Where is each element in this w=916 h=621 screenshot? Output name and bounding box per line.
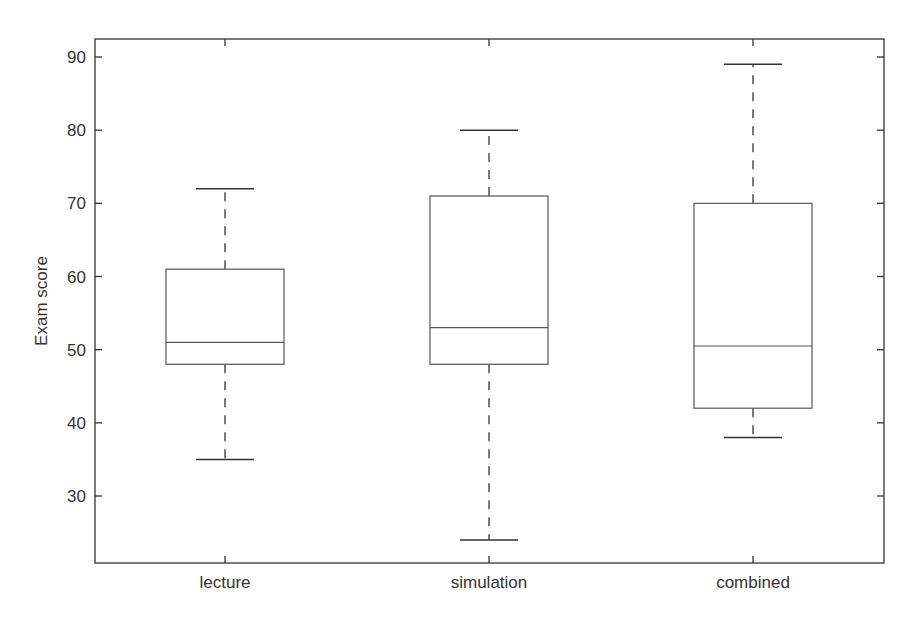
boxes-layer	[166, 64, 812, 540]
iqr-box	[166, 269, 284, 364]
box-combined	[694, 64, 812, 437]
y-axis-label: Exam score	[32, 256, 51, 346]
boxplot-chart: 30405060708090 lecturesimulationcombined…	[0, 0, 916, 621]
x-category-label: simulation	[451, 573, 528, 592]
y-tick-label: 60	[67, 268, 86, 287]
box-simulation	[430, 130, 548, 540]
y-tick-label: 90	[67, 48, 86, 67]
y-tick-label: 70	[67, 194, 86, 213]
y-tick-label: 80	[67, 121, 86, 140]
x-category-label: lecture	[199, 573, 250, 592]
y-tick-label: 30	[67, 487, 86, 506]
y-tick-label: 50	[67, 341, 86, 360]
box-lecture	[166, 189, 284, 460]
iqr-box	[430, 196, 548, 364]
y-tick-label: 40	[67, 414, 86, 433]
x-category-label: combined	[716, 573, 790, 592]
iqr-box	[694, 203, 812, 408]
